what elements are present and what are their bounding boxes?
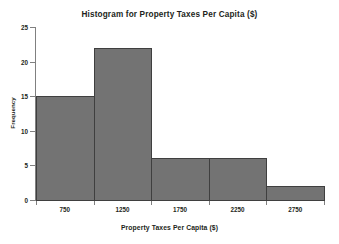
y-tick-label: 20 <box>2 58 28 65</box>
histogram-figure: Histogram for Property Taxes Per Capita … <box>0 0 339 244</box>
y-tick-label: 25 <box>2 24 28 31</box>
histogram-bar <box>151 158 210 201</box>
y-axis-title: Frequency <box>9 97 16 128</box>
x-tick-label: 2250 <box>231 206 245 213</box>
x-tick-label: 750 <box>60 206 71 213</box>
x-tick-label: 2750 <box>288 206 302 213</box>
x-axis-title: Property Taxes Per Capita ($) <box>0 224 339 231</box>
histogram-bar <box>266 186 325 201</box>
y-tick-mark <box>30 27 36 28</box>
histogram-bar <box>209 158 268 201</box>
histogram-bar <box>94 48 153 201</box>
chart-title: Histogram for Property Taxes Per Capita … <box>0 10 339 19</box>
histogram-bar <box>36 96 95 201</box>
y-tick-mark <box>30 62 36 63</box>
x-tick-label: 1250 <box>115 206 129 213</box>
x-tick-label: 1750 <box>173 206 187 213</box>
y-tick-label: 0 <box>2 197 28 204</box>
y-tick-label: 5 <box>2 162 28 169</box>
